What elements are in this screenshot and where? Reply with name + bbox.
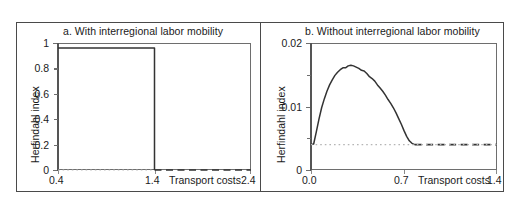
series-herfindahl-curve — [311, 65, 415, 144]
panel-without-labor-mobility: b. Without interregional labor mobility … — [260, 23, 505, 191]
figure-container: a. With interregional labor mobility Her… — [16, 22, 504, 192]
panel-b-series-layer — [261, 23, 506, 193]
panel-with-labor-mobility: a. With interregional labor mobility Her… — [17, 23, 260, 191]
series-agglomerated-branch — [58, 48, 155, 170]
panel-a-series-layer — [17, 23, 260, 193]
